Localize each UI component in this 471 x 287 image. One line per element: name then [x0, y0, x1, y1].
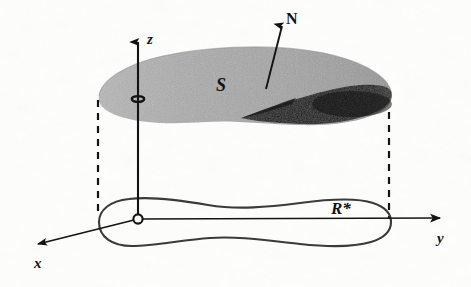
diagram-canvas	[0, 0, 471, 287]
y-axis-line	[138, 218, 440, 219]
y-axis-label: y	[437, 231, 444, 246]
surface-label: S	[216, 76, 226, 94]
origin-marker	[133, 214, 142, 223]
region-label: R*	[331, 200, 351, 217]
surface-wedge-shadow	[312, 91, 392, 117]
x-axis-label: x	[34, 256, 42, 271]
z-axis-label: z	[147, 32, 153, 47]
scan-bleed-texture	[0, 0, 471, 287]
normal-vector-label: N	[286, 11, 298, 27]
figure-container: z y x S N R*	[0, 0, 471, 287]
